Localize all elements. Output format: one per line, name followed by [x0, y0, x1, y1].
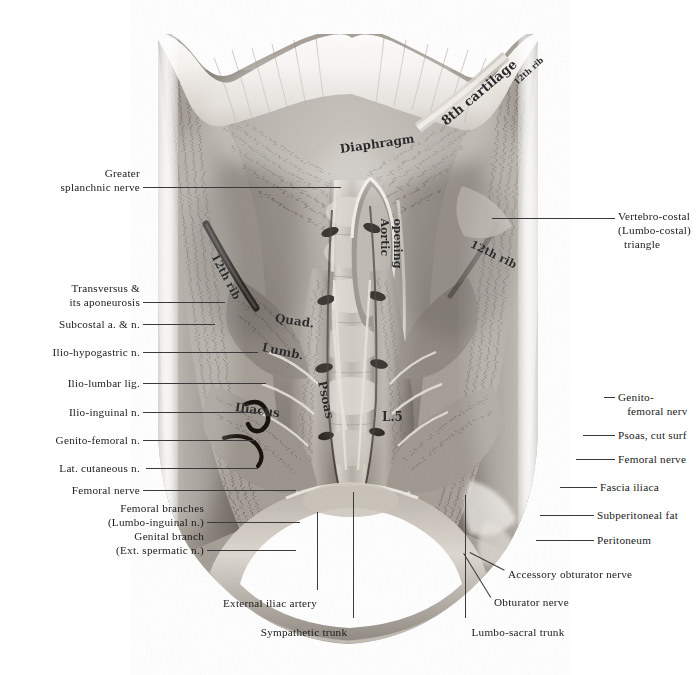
label-line: Subcostal a. & n. — [59, 317, 140, 331]
label-vertebro-costal-triangle: Vertebro-costal(Lumbo-costal) triangle — [618, 209, 691, 251]
label-subcostal-artery-and-nerve: Subcostal a. & n. — [59, 317, 140, 331]
label-accessory-obturator-nerve: Accessory obturator nerve — [508, 567, 632, 581]
label-subperitoneal-fat: Subperitoneal fat — [597, 508, 678, 522]
label-lateral-cutaneous-nerve: Lat. cutaneous n. — [59, 461, 140, 475]
label-line: (Lumbo-inguinal n.) — [99, 515, 204, 529]
leader-subperitoneal-fat — [540, 515, 594, 516]
leader-femoral-branches-lumbo-inguinal — [207, 522, 300, 523]
label-line: Genital branch — [107, 529, 204, 543]
label-psoas-cut-surface: Psoas, cut surf — [618, 428, 687, 442]
label-line: Lumbo-sacral trunk — [398, 625, 638, 639]
leader-external-iliac-artery — [317, 512, 318, 590]
label-femoral-nerve-right: Femoral nerve — [618, 452, 686, 466]
label-line: (Lumbo-costal) — [618, 223, 691, 237]
label-line: Peritoneum — [597, 533, 651, 547]
leader-psoas-cut-surface — [583, 435, 615, 436]
label-line: Vertebro-costal — [618, 209, 691, 223]
label-line: External iliac artery — [150, 596, 390, 610]
label-line: (Ext. spermatic n.) — [107, 543, 204, 557]
label-genito-femoral-nerve-right: Genito- femoral nerv — [618, 390, 688, 418]
label-obturator-nerve: Obturator nerve — [494, 595, 569, 609]
label-peritoneum: Peritoneum — [597, 533, 651, 547]
leader-fascia-iliaca — [560, 487, 597, 488]
anatomy-plate: DiaphragmAorticopening8th cartilage12th … — [0, 0, 696, 675]
label-line: Ilio-lumbar lig. — [68, 376, 140, 390]
label-ilio-hypogastric-nerve: Ilio-hypogastric n. — [53, 345, 140, 359]
leader-peritoneum — [536, 540, 594, 541]
label-sympathetic-trunk: Sympathetic trunk — [184, 625, 424, 639]
label-line: its aponeurosis — [60, 295, 140, 309]
label-genital-branch-ext-spermatic: Genital branch (Ext. spermatic n.) — [107, 529, 204, 557]
label-line: Transversus & — [60, 281, 140, 295]
label-femoral-nerve-left: Femoral nerve — [72, 483, 140, 497]
label-line: Subperitoneal fat — [597, 508, 678, 522]
leader-genito-femoral-nerve-left — [143, 440, 256, 441]
label-external-iliac-artery: External iliac artery — [150, 596, 390, 610]
leader-ilio-inguinal-nerve — [143, 412, 262, 413]
leader-femoral-nerve-left — [143, 490, 296, 491]
label-line: Femoral nerve — [618, 452, 686, 466]
label-line: Sympathetic trunk — [184, 625, 424, 639]
label-transversus-and-aponeurosis: Transversus & its aponeurosis — [60, 281, 140, 309]
leader-greater-splanchnic-nerve — [143, 187, 341, 188]
label-line: Genito-femoral n. — [56, 433, 140, 447]
leader-femoral-nerve-right — [576, 459, 615, 460]
label-line: Lat. cutaneous n. — [59, 461, 140, 475]
leader-genito-femoral-nerve-right — [604, 397, 615, 398]
label-line: Ilio-inguinal n. — [69, 405, 140, 419]
label-line: Genito- — [618, 390, 688, 404]
label-genito-femoral-nerve-left: Genito-femoral n. — [56, 433, 140, 447]
label-greater-splanchnic-nerve: Greater splanchnic nerve — [51, 166, 140, 194]
label-line: triangle — [618, 237, 691, 251]
label-femoral-branches-lumbo-inguinal: Femoral branches (Lumbo-inguinal n.) — [99, 501, 204, 529]
leader-lateral-cutaneous-nerve — [146, 468, 258, 469]
leader-lumbo-sacral-trunk — [465, 495, 466, 618]
label-ilio-inguinal-nerve: Ilio-inguinal n. — [69, 405, 140, 419]
label-line: Fascia iliaca — [600, 480, 659, 494]
label-line: femoral nerv — [618, 404, 688, 418]
label-ilio-lumbar-ligament: Ilio-lumbar lig. — [68, 376, 140, 390]
label-line: Ilio-hypogastric n. — [53, 345, 140, 359]
leader-vertebro-costal-triangle — [492, 218, 615, 219]
label-line: Obturator nerve — [494, 595, 569, 609]
label-line: Accessory obturator nerve — [508, 567, 632, 581]
leader-ilio-lumbar-ligament — [143, 383, 266, 384]
leader-ilio-hypogastric-nerve — [143, 352, 258, 353]
leader-subcostal-artery-and-nerve — [143, 324, 215, 325]
label-fascia-iliaca: Fascia iliaca — [600, 480, 659, 494]
label-line: Psoas, cut surf — [618, 428, 687, 442]
leader-transversus-and-aponeurosis — [143, 302, 225, 303]
label-line: Femoral nerve — [72, 483, 140, 497]
label-lumbo-sacral-trunk: Lumbo-sacral trunk — [398, 625, 638, 639]
label-line: Femoral branches — [99, 501, 204, 515]
label-line: Greater — [51, 166, 140, 180]
label-line: splanchnic nerve — [51, 180, 140, 194]
leader-genital-branch-ext-spermatic — [207, 550, 296, 551]
